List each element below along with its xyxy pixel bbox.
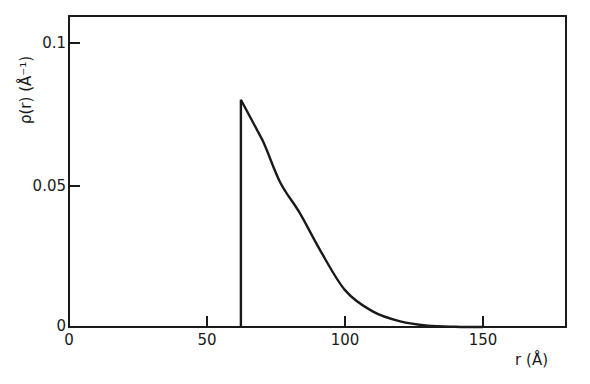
- plot-frame: [69, 16, 566, 327]
- x-tick-label-50: 50: [197, 331, 216, 349]
- y-tick-label-0.1: 0.1: [42, 34, 66, 52]
- x-tick-label-150: 150: [469, 331, 498, 349]
- x-axis-label: r (Å): [515, 350, 548, 369]
- y-tick-label-0.05: 0.05: [33, 177, 66, 195]
- y-axis-label: ρ(r) (Å⁻¹): [16, 56, 35, 124]
- chart: 0.1 0.05 0 0 50 100 150 r (Å) ρ(r) (Å⁻¹): [0, 0, 590, 384]
- density-curve: [241, 100, 483, 327]
- x-tick-label-100: 100: [331, 331, 360, 349]
- x-tick-label-0: 0: [64, 331, 74, 349]
